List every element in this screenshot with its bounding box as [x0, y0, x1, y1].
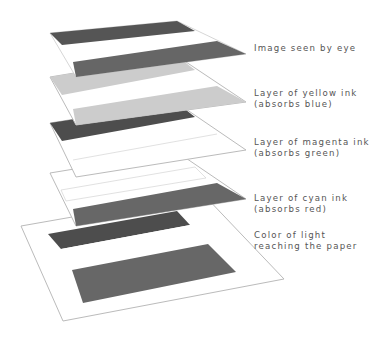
- label-paper-line1: Color of light: [254, 230, 358, 241]
- label-yellow-line2: (absorbs blue): [254, 99, 357, 110]
- label-cyan: Layer of cyan ink (absorbs red): [254, 193, 348, 215]
- label-magenta-line2: (absorbs green): [254, 148, 370, 159]
- label-magenta-line1: Layer of magenta ink: [254, 137, 370, 148]
- label-cyan-line1: Layer of cyan ink: [254, 193, 348, 204]
- label-paper-line2: reaching the paper: [254, 241, 358, 252]
- label-eye: Image seen by eye: [254, 43, 356, 54]
- label-yellow-line1: Layer of yellow ink: [254, 88, 357, 99]
- label-paper: Color of light reaching the paper: [254, 230, 358, 252]
- label-cyan-line2: (absorbs red): [254, 204, 348, 215]
- label-yellow: Layer of yellow ink (absorbs blue): [254, 88, 357, 110]
- label-eye-line1: Image seen by eye: [254, 43, 356, 54]
- label-magenta: Layer of magenta ink (absorbs green): [254, 137, 370, 159]
